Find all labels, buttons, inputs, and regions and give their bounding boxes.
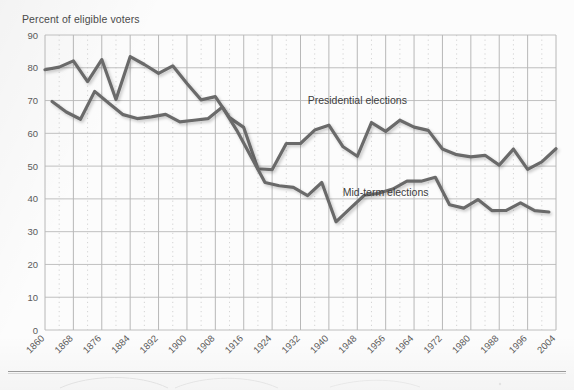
x-axis-tick-label: 1900 bbox=[166, 333, 189, 356]
x-axis-tick-label: 1956 bbox=[364, 333, 387, 356]
x-axis-tick-label: 1916 bbox=[222, 333, 245, 356]
series-label: Presidential elections bbox=[308, 94, 407, 106]
footer-rule-dark bbox=[8, 371, 566, 372]
y-axis-tick-labels: 0102030405060708090 bbox=[27, 30, 38, 336]
series-label: Mid-term elections bbox=[343, 186, 429, 198]
x-axis-tick-label: 2004 bbox=[535, 333, 558, 356]
x-axis-tick-label: 1924 bbox=[251, 333, 274, 356]
x-axis-tick-label: 1884 bbox=[109, 333, 132, 356]
y-axis-tick-label: 10 bbox=[27, 292, 38, 303]
x-axis-tick-label: 1908 bbox=[194, 333, 217, 356]
y-axis-tick-label: 20 bbox=[27, 259, 38, 270]
y-axis-tick-label: 50 bbox=[27, 161, 38, 172]
x-axis-tick-label: 1892 bbox=[137, 333, 160, 356]
y-axis-tick-label: 40 bbox=[27, 193, 38, 204]
x-axis-tick-label: 1996 bbox=[506, 333, 529, 356]
y-axis-tick-label: 90 bbox=[27, 30, 38, 41]
x-axis-tick-label: 1980 bbox=[450, 333, 473, 356]
x-axis-tick-label: 1972 bbox=[421, 333, 444, 356]
y-axis-tick-label: 80 bbox=[27, 62, 38, 73]
x-axis-tick-label: 1988 bbox=[478, 333, 501, 356]
y-axis-tick-label: 60 bbox=[27, 128, 38, 139]
x-axis-tick-labels: 1860186818761884189219001908191619241932… bbox=[24, 333, 558, 356]
y-axis-tick-label: 70 bbox=[27, 95, 38, 106]
chart-container: Percent of eligible voters 0102030405060… bbox=[0, 0, 574, 390]
x-axis-tick-label: 1964 bbox=[393, 333, 416, 356]
footer-rule-light bbox=[8, 373, 566, 374]
x-axis-tick-label: 1940 bbox=[308, 333, 331, 356]
x-axis-tick-label: 1932 bbox=[279, 333, 302, 356]
y-axis-tick-label: 30 bbox=[27, 226, 38, 237]
x-axis-tick-label: 1948 bbox=[336, 333, 359, 356]
x-axis-tick-label: 1876 bbox=[80, 333, 103, 356]
x-axis-tick-label: 1860 bbox=[24, 333, 47, 356]
chart-plot-area: 0102030405060708090 18601868187618841892… bbox=[0, 0, 574, 390]
x-axis-tick-label: 1868 bbox=[52, 333, 75, 356]
